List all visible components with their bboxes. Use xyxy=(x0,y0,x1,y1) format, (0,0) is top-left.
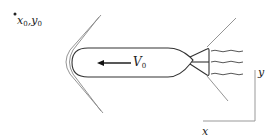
velocity-subscript: 0 xyxy=(142,62,146,70)
nozzle-shock-lines xyxy=(207,18,236,101)
coordinate-axes xyxy=(203,70,255,121)
nozzle xyxy=(190,49,209,76)
y-axis-label: y xyxy=(258,67,264,78)
x-axis-label: x xyxy=(202,126,208,137)
exhaust-streams xyxy=(211,50,243,75)
velocity-label: V0 xyxy=(133,56,146,70)
origin-x-subscript: 0 xyxy=(23,20,27,28)
velocity-symbol: V xyxy=(133,55,142,69)
origin-point-label: x0,y0 xyxy=(17,15,42,28)
origin-y-subscript: 0 xyxy=(37,20,41,28)
